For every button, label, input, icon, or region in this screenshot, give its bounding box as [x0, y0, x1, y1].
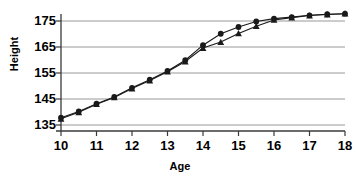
data-line-series-2 [61, 14, 345, 119]
data-point-triangle [217, 39, 224, 45]
data-point-triangle [235, 30, 242, 36]
data-line-series-1 [61, 14, 345, 118]
data-point-circle [236, 24, 242, 30]
data-point-circle [218, 31, 224, 37]
